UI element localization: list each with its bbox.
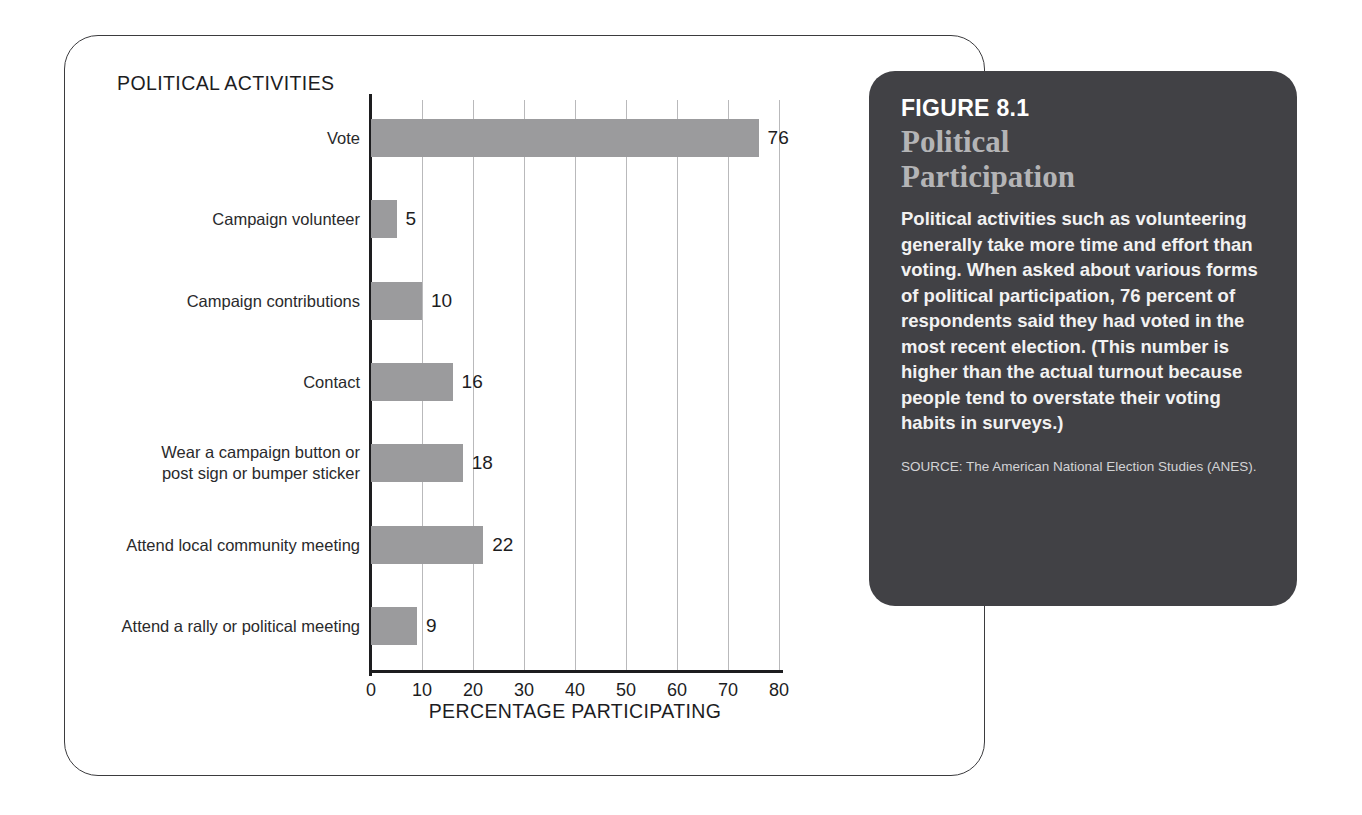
bar-row: Attend a rally or political meeting9: [371, 607, 779, 645]
caption-body: Political activities such as volunteerin…: [901, 206, 1267, 436]
x-tick-label-10: 10: [412, 680, 432, 701]
figure-title: PoliticalParticipation: [901, 124, 1267, 194]
bar-category-label: Attend local community meeting: [126, 534, 360, 555]
x-tick-label-0: 0: [366, 680, 376, 701]
bar-row: Wear a campaign button or post sign or b…: [371, 444, 779, 482]
caption-panel: FIGURE 8.1 PoliticalParticipation Politi…: [869, 71, 1297, 606]
figure-page: POLITICAL ACTIVITIES Vote76Campaign volu…: [0, 0, 1362, 815]
x-tick-label-60: 60: [667, 680, 687, 701]
bar-value-label: 76: [768, 127, 789, 149]
bar-category-label: Campaign volunteer: [212, 209, 360, 230]
bar: [371, 526, 483, 564]
plot-area: Vote76Campaign volunteer5Campaign contri…: [371, 100, 779, 670]
bar: [371, 444, 463, 482]
x-tick-label-20: 20: [463, 680, 483, 701]
x-tick-label-80: 80: [769, 680, 789, 701]
bar-value-label: 18: [472, 452, 493, 474]
bar: [371, 200, 397, 238]
bar-value-label: 5: [406, 208, 417, 230]
x-axis-title: PERCENTAGE PARTICIPATING: [371, 700, 779, 723]
bar: [371, 119, 759, 157]
bar-row: Contact16: [371, 363, 779, 401]
bar: [371, 607, 417, 645]
x-tick-label-40: 40: [565, 680, 585, 701]
bar-row: Campaign volunteer5: [371, 200, 779, 238]
bar-value-label: 9: [426, 615, 437, 637]
bar: [371, 282, 422, 320]
bar-category-label: Vote: [327, 127, 360, 148]
chart-title: POLITICAL ACTIVITIES: [117, 72, 335, 95]
x-tick-label-50: 50: [616, 680, 636, 701]
bar-row: Attend local community meeting22: [371, 526, 779, 564]
bar-category-label: Contact: [303, 372, 360, 393]
bar-value-label: 22: [492, 534, 513, 556]
bar-value-label: 16: [462, 371, 483, 393]
bar: [371, 363, 453, 401]
bar-value-label: 10: [431, 290, 452, 312]
x-tick-label-30: 30: [514, 680, 534, 701]
x-tick-label-70: 70: [718, 680, 738, 701]
bar-row: Vote76: [371, 119, 779, 157]
x-axis-line: [369, 670, 783, 673]
bar-row: Campaign contributions10: [371, 282, 779, 320]
caption-source: SOURCE: The American National Election S…: [901, 458, 1267, 476]
bar-category-label: Campaign contributions: [187, 290, 360, 311]
bar-category-label: Wear a campaign button or post sign or b…: [161, 442, 360, 484]
bar-category-label: Attend a rally or political meeting: [122, 616, 360, 637]
figure-number: FIGURE 8.1: [901, 95, 1267, 122]
